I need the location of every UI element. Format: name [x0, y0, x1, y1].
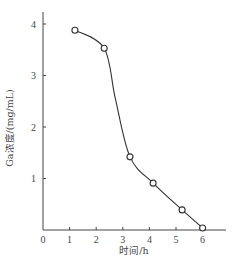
- data-point-marker: [179, 207, 185, 213]
- concentration-chart: 0123456 1234 时间/h Ga浓度/(mg/mL): [0, 0, 241, 273]
- y-tick-label: 2: [31, 122, 36, 133]
- x-tick-label: 5: [174, 234, 179, 245]
- y-axis-label: Ga浓度/(mg/mL): [4, 89, 15, 166]
- data-markers: [72, 27, 206, 231]
- y-tick-label: 1: [31, 173, 36, 184]
- axes: [43, 12, 226, 230]
- x-axis-label: 时间/h: [119, 245, 148, 256]
- x-tick-label: 1: [67, 234, 72, 245]
- data-point-marker: [150, 180, 156, 186]
- data-point-marker: [127, 154, 133, 160]
- data-point-marker: [101, 45, 107, 51]
- data-curve: [75, 30, 203, 228]
- x-tick-label: 2: [94, 234, 99, 245]
- y-tick-label: 4: [31, 19, 36, 30]
- y-tick-label: 3: [31, 70, 36, 81]
- x-tick-label: 4: [147, 234, 152, 245]
- data-point-marker: [200, 225, 206, 231]
- y-ticks: 1234: [31, 19, 46, 185]
- data-point-marker: [72, 27, 78, 33]
- x-tick-label: 0: [41, 234, 46, 245]
- x-tick-label: 6: [200, 234, 205, 245]
- x-tick-label: 3: [120, 234, 125, 245]
